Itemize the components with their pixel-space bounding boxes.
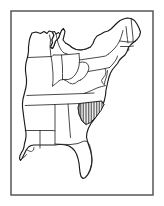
boundary-ma-south <box>121 46 134 47</box>
figure-root: Outline map of the eastern United States… <box>0 0 164 206</box>
eastern-us-outline-map <box>0 0 164 206</box>
